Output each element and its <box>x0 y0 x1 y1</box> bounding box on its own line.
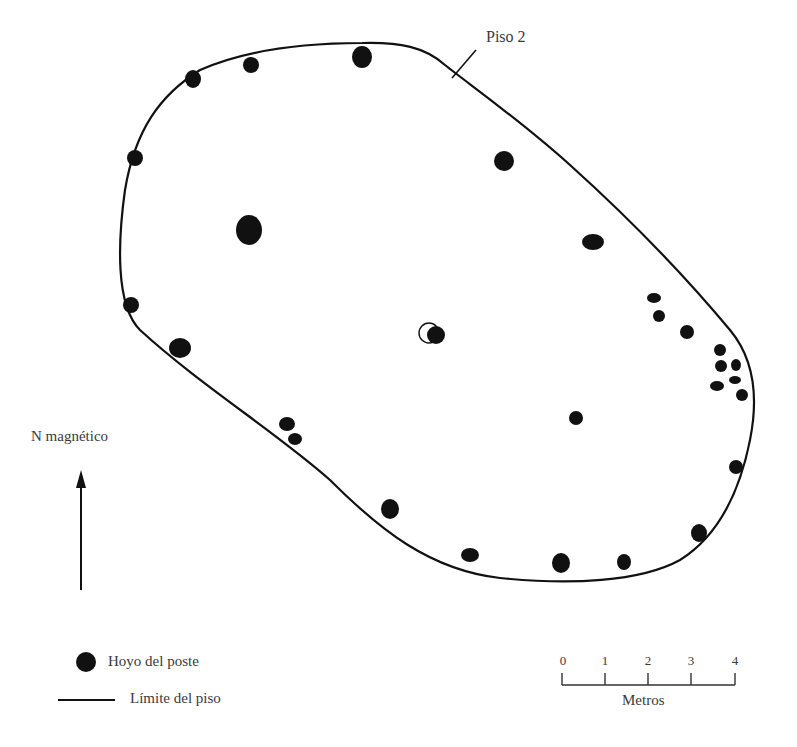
post-hole <box>123 297 139 313</box>
post-hole <box>381 499 399 519</box>
post-hole <box>617 554 631 570</box>
post-hole <box>427 326 445 344</box>
post-hole <box>352 46 372 68</box>
post-hole <box>461 548 479 562</box>
post-hole <box>736 389 748 401</box>
post-hole <box>729 460 743 474</box>
floor-label: Piso 2 <box>486 28 526 46</box>
post-hole <box>552 553 570 573</box>
floor-label-leader <box>452 50 476 78</box>
post-hole <box>569 411 583 425</box>
post-hole <box>715 360 727 372</box>
north-arrow-icon <box>76 470 86 488</box>
post-hole <box>647 293 661 303</box>
post-hole <box>691 524 707 542</box>
scale-bar <box>562 673 735 685</box>
post-hole <box>185 70 201 88</box>
post-hole <box>127 150 143 166</box>
post-hole <box>279 417 295 431</box>
scale-tick-2: 2 <box>645 653 652 669</box>
scale-tick-1: 1 <box>602 653 609 669</box>
post-hole <box>494 151 514 171</box>
north-arrow-label: N magnético <box>31 428 108 445</box>
floor-plan-diagram <box>0 0 797 747</box>
post-hole <box>731 359 741 371</box>
post-hole <box>653 310 665 322</box>
post-hole <box>710 381 724 391</box>
scale-tick-4: 4 <box>732 653 739 669</box>
post-hole <box>243 57 259 73</box>
legend-post-hole-icon <box>76 652 96 672</box>
scale-tick-0: 0 <box>560 653 567 669</box>
post-hole <box>169 338 191 358</box>
post-hole <box>714 344 726 356</box>
post-hole <box>288 433 302 445</box>
legend-post-hole-label: Hoyo del poste <box>108 653 199 670</box>
post-holes-group <box>123 46 748 573</box>
post-hole <box>729 376 741 384</box>
post-hole <box>582 234 604 250</box>
post-hole <box>236 215 262 245</box>
scale-unit-label: Metros <box>622 692 665 709</box>
legend-boundary-label: Límite del piso <box>130 690 221 707</box>
scale-tick-3: 3 <box>688 653 695 669</box>
post-hole <box>680 325 694 339</box>
